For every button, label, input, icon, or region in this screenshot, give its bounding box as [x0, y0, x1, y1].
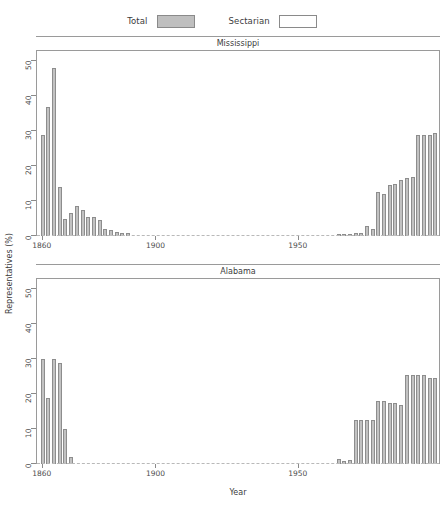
- bar: [393, 184, 397, 236]
- x-tick-label: 1950: [288, 241, 307, 250]
- legend-label-sectarian: Sectarian: [229, 16, 270, 26]
- panel-strip-alabama: Alabama: [36, 264, 440, 279]
- y-tick-label: 40: [25, 324, 34, 334]
- bar: [416, 135, 420, 236]
- legend-swatch-total: [157, 15, 195, 28]
- bar: [41, 135, 45, 236]
- plot-area: Representatives (%) 01020304050 01020304…: [0, 32, 444, 514]
- bar: [75, 206, 79, 236]
- y-tick-label: 30: [25, 131, 34, 141]
- x-tick-mark: [298, 464, 299, 468]
- panel-frame-alabama: [36, 279, 440, 464]
- legend-label-total: Total: [127, 16, 147, 26]
- bar: [405, 375, 409, 464]
- bar: [411, 375, 415, 464]
- x-tick-mark: [42, 236, 43, 240]
- y-axis-mississippi: 01020304050: [0, 51, 36, 236]
- y-axis-alabama: 01020304050: [0, 279, 36, 464]
- y-tick-label: 20: [25, 394, 34, 404]
- x-axis-mississippi: 186019001950: [36, 236, 440, 254]
- bar: [376, 401, 380, 464]
- x-tick-label: 1860: [32, 469, 51, 478]
- y-tick-label: 0: [25, 236, 34, 241]
- bar: [371, 420, 375, 464]
- bar: [411, 177, 415, 236]
- bar: [41, 359, 45, 464]
- bar: [46, 107, 50, 236]
- y-tick-label: 0: [25, 464, 34, 469]
- bar: [382, 401, 386, 464]
- x-axis-alabama: 186019001950: [36, 464, 440, 482]
- bar: [46, 398, 50, 464]
- legend-entry-total: Total: [127, 15, 194, 28]
- bar: [433, 378, 437, 464]
- bar: [52, 68, 56, 236]
- bar: [69, 213, 73, 236]
- y-tick-label: 10: [25, 429, 34, 439]
- bar: [422, 375, 426, 464]
- x-tick-mark: [298, 236, 299, 240]
- x-tick-label: 1900: [146, 241, 165, 250]
- bar: [58, 187, 62, 236]
- bar: [359, 420, 363, 464]
- y-tick-label: 40: [25, 96, 34, 106]
- y-tick-label: 50: [25, 61, 34, 71]
- bar: [382, 194, 386, 236]
- y-tick-label: 50: [25, 289, 34, 299]
- bar: [58, 363, 62, 464]
- x-tick-label: 1860: [32, 241, 51, 250]
- x-tick-mark: [155, 236, 156, 240]
- y-tick-label: 10: [25, 201, 34, 211]
- legend-entry-sectarian: Sectarian: [229, 15, 317, 28]
- bar: [393, 403, 397, 464]
- bar: [92, 217, 96, 236]
- bar: [405, 178, 409, 236]
- bar: [376, 192, 380, 236]
- bar: [354, 420, 358, 464]
- bar: [422, 135, 426, 236]
- legend: TotalSectarian: [0, 10, 444, 32]
- bar: [365, 420, 369, 464]
- bar: [63, 219, 67, 236]
- y-tick-label: 20: [25, 166, 34, 176]
- bar: [399, 180, 403, 236]
- x-tick-label: 1900: [146, 469, 165, 478]
- x-axis-label: Year: [36, 488, 440, 497]
- y-tick-label: 30: [25, 359, 34, 369]
- bar: [388, 185, 392, 236]
- bar: [428, 135, 432, 236]
- bar: [428, 378, 432, 464]
- panel-title-mississippi: Mississippi: [217, 39, 260, 48]
- panel-mississippi: Mississippi: [36, 36, 440, 236]
- x-tick-mark: [155, 464, 156, 468]
- bar: [81, 210, 85, 236]
- panel-frame-mississippi: [36, 51, 440, 236]
- bar: [63, 429, 67, 464]
- bar: [98, 220, 102, 236]
- x-tick-mark: [42, 464, 43, 468]
- bar: [52, 359, 56, 464]
- bar: [416, 375, 420, 464]
- bar: [433, 133, 437, 236]
- x-tick-label: 1950: [288, 469, 307, 478]
- legend-swatch-sectarian: [279, 15, 317, 28]
- bar-series-alabama: [37, 279, 439, 464]
- bar: [388, 403, 392, 464]
- panel-strip-mississippi: Mississippi: [36, 36, 440, 51]
- bar: [86, 217, 90, 236]
- panel-alabama: Alabama: [36, 264, 440, 464]
- panel-title-alabama: Alabama: [220, 267, 255, 276]
- bar-series-mississippi: [37, 51, 439, 236]
- bar: [399, 405, 403, 464]
